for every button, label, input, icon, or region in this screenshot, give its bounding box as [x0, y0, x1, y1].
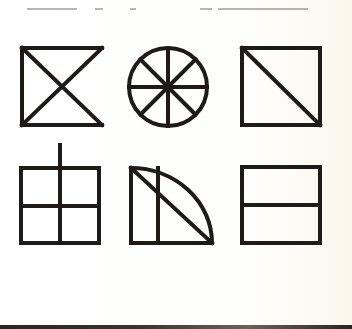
square-halved-shape	[242, 167, 320, 243]
bowtie-square-shape	[22, 48, 102, 125]
wheel-shape	[129, 48, 207, 126]
geometric-figures	[0, 0, 352, 329]
page-bottom-edge	[0, 325, 352, 329]
square-diagonal-shape	[242, 48, 320, 125]
four-pane-grid-shape	[21, 145, 99, 243]
quarter-circle-shape	[131, 168, 212, 243]
